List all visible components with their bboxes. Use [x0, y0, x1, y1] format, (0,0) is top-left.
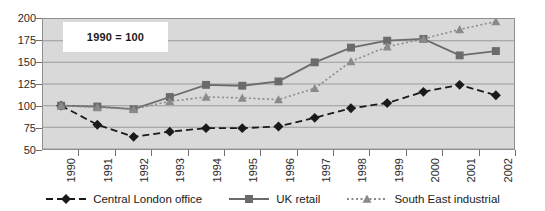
- x-axis-tick-label: 2002: [502, 158, 514, 182]
- x-axis-tick-mark: [333, 150, 334, 156]
- data-point-marker-triangle: [346, 57, 355, 65]
- x-axis-tick-mark: [442, 150, 443, 156]
- x-axis-tick-mark: [297, 150, 298, 156]
- property-index-line-chart: 2001751501251007550 1990 = 100 199019911…: [0, 0, 545, 211]
- data-point-marker-diamond: [455, 80, 465, 90]
- x-axis-tick-label: 1996: [284, 158, 296, 182]
- y-axis-tick-label: 75: [0, 122, 36, 134]
- data-point-marker-triangle: [310, 84, 319, 92]
- data-point-marker-diamond: [310, 113, 320, 123]
- y-axis-tick-label: 175: [0, 34, 36, 46]
- data-point-marker-diamond: [92, 120, 102, 130]
- data-point-marker-diamond: [237, 123, 247, 133]
- legend-label: UK retail: [276, 193, 320, 205]
- x-axis-tick-label: 1998: [356, 158, 368, 182]
- x-axis-tick-mark: [115, 150, 116, 156]
- x-axis-tick-label: 1995: [247, 158, 259, 182]
- x-axis-tick-label: 1997: [320, 158, 332, 182]
- data-point-marker-triangle: [455, 25, 464, 33]
- data-point-marker-square: [311, 58, 319, 66]
- legend-label: Central London office: [93, 193, 202, 205]
- legend-entry-south-east-industrial[interactable]: South East industrial: [346, 192, 499, 206]
- data-point-marker-square: [238, 82, 246, 90]
- base-year-annotation: 1990 = 100: [63, 22, 168, 52]
- legend-label: South East industrial: [394, 193, 499, 205]
- x-axis-tick-label: 2000: [429, 158, 441, 182]
- x-axis-tick-label: 1990: [65, 158, 77, 182]
- data-point-marker-diamond: [382, 98, 392, 108]
- data-point-marker-diamond: [491, 90, 501, 100]
- x-axis-tick-label: 1999: [393, 158, 405, 182]
- x-axis-tick-mark: [406, 150, 407, 156]
- base-year-annotation-label: 1990 = 100: [87, 31, 144, 43]
- data-point-marker-square: [275, 77, 283, 85]
- legend-marker-diamond-icon: [45, 192, 87, 206]
- chart-legend: Central London officeUK retailSouth East…: [0, 186, 545, 211]
- data-point-marker-square: [456, 51, 464, 59]
- x-axis-tick-label: 1991: [102, 158, 114, 182]
- legend-entry-central-london-office[interactable]: Central London office: [45, 192, 202, 206]
- x-axis-tick-mark: [369, 150, 370, 156]
- x-axis-tick-label: 1992: [138, 158, 150, 182]
- x-axis-tick-mark: [260, 150, 261, 156]
- legend-marker-triangle-icon: [346, 192, 388, 206]
- series-central-london-office: [56, 80, 501, 142]
- y-axis-tick-label: 150: [0, 56, 36, 68]
- data-point-marker-diamond: [201, 123, 211, 133]
- data-point-marker-diamond: [418, 87, 428, 97]
- data-point-marker-square: [347, 44, 355, 52]
- legend-entry-uk-retail[interactable]: UK retail: [228, 192, 320, 206]
- data-point-marker-diamond: [61, 194, 71, 204]
- x-axis-tick-mark: [151, 150, 152, 156]
- data-point-marker-triangle: [491, 19, 500, 25]
- y-axis-tick-label: 100: [0, 100, 36, 112]
- data-point-marker-diamond: [274, 122, 284, 132]
- legend-marker-square-icon: [228, 192, 270, 206]
- x-axis-tick-label: 1994: [211, 158, 223, 182]
- data-point-marker-diamond: [129, 132, 139, 142]
- x-axis-tick-mark: [78, 150, 79, 156]
- data-point-marker-diamond: [346, 103, 356, 113]
- x-axis-tick-label: 2001: [465, 158, 477, 182]
- data-point-marker-square: [202, 81, 210, 89]
- x-axis-tick-label: 1993: [174, 158, 186, 182]
- data-point-marker-square: [245, 195, 253, 203]
- x-axis-tick-mark: [188, 150, 189, 156]
- y-axis-tick-label: 200: [0, 12, 36, 24]
- data-point-marker-square: [492, 47, 500, 55]
- x-axis-tick-mark: [224, 150, 225, 156]
- data-point-marker-diamond: [165, 127, 175, 137]
- y-axis-tick-label: 125: [0, 78, 36, 90]
- x-axis-tick-mark: [515, 150, 516, 156]
- x-axis-tick-mark: [479, 150, 480, 156]
